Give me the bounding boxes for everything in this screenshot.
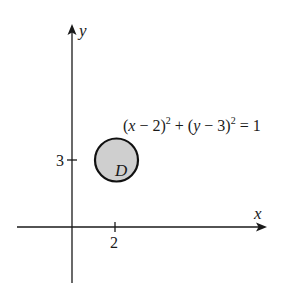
eq-equals-1: = 1 [236, 117, 261, 134]
y-axis-label: y [77, 21, 87, 40]
eq-minus-3: − 3) [200, 117, 230, 135]
eq-plus: + ( [171, 117, 193, 135]
diagram-canvas: x y 2 3 D (x − 2)2 + (y − 3)2 = 1 [0, 0, 308, 293]
region-d-label: D [114, 161, 128, 180]
eq-minus-2: − 2) [135, 117, 165, 135]
x-tick-label-2: 2 [110, 234, 118, 251]
circle-equation: (x − 2)2 + (y − 3)2 = 1 [123, 115, 261, 135]
x-axis-label: x [253, 204, 262, 223]
eq-x-var: x [127, 117, 135, 134]
y-tick-label-3: 3 [56, 152, 64, 169]
